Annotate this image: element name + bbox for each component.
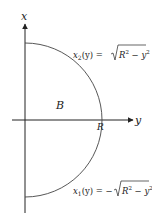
region-label: B bbox=[55, 99, 64, 112]
svg-text:x1(y) = −: x1(y) = − bbox=[73, 186, 113, 197]
upper-curve-label: x2(y) = R2 − y2 bbox=[73, 45, 150, 61]
lower-curve-label: x1(y) = − R2 − y2 bbox=[73, 181, 152, 197]
svg-text:R2 − y2: R2 − y2 bbox=[118, 49, 150, 60]
svg-text:x2(y) =: x2(y) = bbox=[73, 50, 103, 61]
y-axis-label: y bbox=[134, 114, 142, 127]
radius-label: R bbox=[96, 122, 104, 132]
x-axis-label: x bbox=[21, 10, 28, 23]
svg-text:R2 − y2: R2 − y2 bbox=[121, 185, 152, 196]
half-disk-diagram: x y B R x2(y) = R2 − y2 x1(y) = − R2 − y… bbox=[0, 0, 152, 218]
